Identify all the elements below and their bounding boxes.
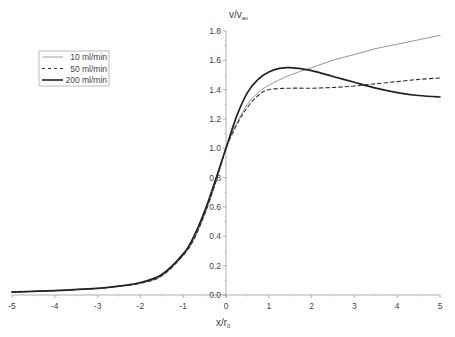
y-tick-label: 0.0 [209, 290, 221, 300]
y-axis-label: v/vav [229, 9, 248, 21]
x-tick-label: -2 [137, 301, 145, 311]
y-tick-label: 1.6 [209, 55, 221, 65]
y-tick-label: 1.2 [209, 114, 221, 124]
legend-label-10: 10 ml/min [70, 52, 107, 62]
y-tick-label: 0.6 [209, 202, 221, 212]
x-tick-label: 4 [395, 301, 400, 311]
x-tick-label: 5 [438, 301, 443, 311]
x-axis-label: x/r0 [216, 317, 231, 329]
legend: 10 ml/min 50 ml/min 200 ml/min [39, 51, 109, 86]
x-tick-label: -4 [51, 301, 59, 311]
y-tick-label: 1.8 [209, 26, 221, 36]
legend-label-200: 200 ml/min [65, 75, 107, 85]
x-tick-label: 3 [352, 301, 357, 311]
x-tick-label: 2 [309, 301, 314, 311]
y-tick-label: 1.4 [209, 85, 221, 95]
y-tick-label: 0.2 [209, 261, 221, 271]
legend-label-50: 50 ml/min [70, 64, 107, 74]
x-tick-label: -3 [94, 301, 102, 311]
x-tick-label: 0 [224, 301, 229, 311]
line-chart: -5-4-3-2-10123450.00.20.40.60.81.01.21.4… [0, 0, 455, 337]
y-tick-label: 0.4 [209, 231, 221, 241]
chart-canvas: -5-4-3-2-10123450.00.20.40.60.81.01.21.4… [0, 0, 455, 337]
x-tick-label: -5 [8, 301, 16, 311]
x-tick-label: 1 [266, 301, 271, 311]
x-tick-label: -1 [179, 301, 187, 311]
y-tick-label: 1.0 [209, 143, 221, 153]
